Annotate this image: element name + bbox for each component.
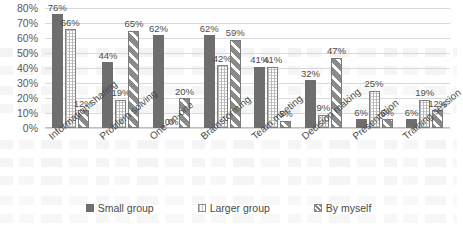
y-axis-tick-label: 60% — [17, 33, 38, 44]
legend-item[interactable]: Small group — [86, 203, 154, 214]
bar-value-label: 32% — [301, 69, 320, 79]
bar-0 — [52, 14, 63, 128]
y-axis: 0%10%20%30%40%50%60%70%80% — [0, 8, 42, 128]
bar-2 — [382, 119, 393, 128]
y-axis-tick-label: 50% — [17, 48, 38, 59]
y-axis-tick-label: 20% — [17, 93, 38, 104]
bar-value-label: 6% — [405, 108, 419, 118]
bar-value-label: 62% — [149, 24, 168, 34]
y-axis-tick-label: 40% — [17, 63, 38, 74]
bar-value-label: 66% — [61, 18, 80, 28]
y-axis-tick-label: 70% — [17, 18, 38, 29]
bar-value-label: 41% — [263, 55, 282, 65]
x-axis-labels: Information sharingProblem solvingOne-on… — [45, 130, 450, 192]
bar-value-label: 47% — [327, 46, 346, 56]
bar-0 — [204, 35, 215, 128]
legend-label: Larger group — [210, 203, 270, 214]
bar-value-label: 19% — [415, 88, 434, 98]
bar-2 — [280, 121, 291, 129]
legend-swatch-icon — [314, 204, 322, 212]
bar-value-label: 25% — [365, 79, 384, 89]
legend-label: By myself — [326, 203, 372, 214]
y-axis-tick-label: 0% — [23, 123, 38, 134]
legend-label: Small group — [98, 203, 154, 214]
legend-swatch-icon — [198, 204, 206, 212]
chart-legend: Small groupLarger groupBy myself — [0, 200, 457, 216]
bar-value-label: 76% — [48, 3, 67, 13]
bar-value-label: 20% — [175, 87, 194, 97]
legend-item[interactable]: By myself — [314, 203, 372, 214]
bar-value-label: 59% — [226, 28, 245, 38]
bar-0 — [254, 67, 265, 129]
bar-0 — [153, 35, 164, 128]
bar-value-label: 62% — [200, 24, 219, 34]
bar-value-label: 44% — [98, 51, 117, 61]
y-axis-tick-label: 10% — [17, 108, 38, 119]
bar-value-label: 65% — [124, 19, 143, 29]
bar-value-label: 6% — [354, 108, 368, 118]
y-axis-tick-label: 30% — [17, 78, 38, 89]
y-axis-tick-label: 80% — [17, 3, 38, 14]
legend-item[interactable]: Larger group — [198, 203, 270, 214]
legend-swatch-icon — [86, 204, 94, 212]
